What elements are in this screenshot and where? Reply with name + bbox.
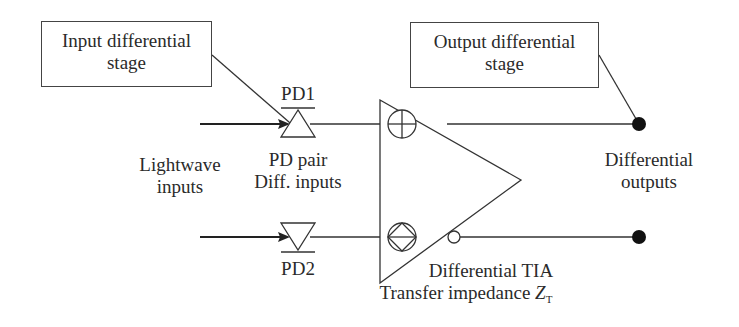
pd-pair-label: PD pair Diff. inputs xyxy=(238,149,358,193)
impedance-subscript: T xyxy=(546,293,553,305)
outputs-line1: Differential xyxy=(589,149,709,171)
input-stage-line1: Input differential xyxy=(42,30,211,52)
input-arrow-bottom xyxy=(200,232,290,242)
lightwave-line2: inputs xyxy=(130,176,230,198)
outputs-line2: outputs xyxy=(589,171,709,193)
input-stage-callout: Input differential stage xyxy=(41,21,212,87)
input-arrow-top xyxy=(200,119,290,129)
output-stage-leader xyxy=(599,55,639,124)
output-stage-line1: Output differential xyxy=(411,31,598,53)
differential-outputs-label: Differential outputs xyxy=(589,149,709,193)
pd-pair-line1: PD pair xyxy=(238,149,358,171)
output-stage-callout: Output differential stage xyxy=(410,22,599,88)
tia-label: Differential TIA Transfer impedance ZT xyxy=(380,260,580,310)
output-stage-line2: stage xyxy=(411,53,598,75)
output-terminal-top-icon xyxy=(632,117,646,131)
tia-line1: Differential TIA xyxy=(380,260,580,282)
lightwave-line1: Lightwave xyxy=(130,154,230,176)
impedance-symbol: Z xyxy=(535,282,546,303)
plus-input-icon xyxy=(388,110,416,138)
input-stage-line2: stage xyxy=(42,52,211,74)
lightwave-inputs-label: Lightwave inputs xyxy=(130,154,230,198)
pd-pair-line2: Diff. inputs xyxy=(238,171,358,193)
inverting-input-icon xyxy=(388,223,416,251)
pd1-label: PD1 xyxy=(268,83,328,105)
tia-line2-prefix: Transfer impedance xyxy=(380,282,535,303)
tia-line2: Transfer impedance ZT xyxy=(352,282,580,310)
inversion-bubble-icon xyxy=(448,231,460,243)
pd2-label: PD2 xyxy=(268,258,328,280)
output-terminal-bottom-icon xyxy=(632,230,646,244)
